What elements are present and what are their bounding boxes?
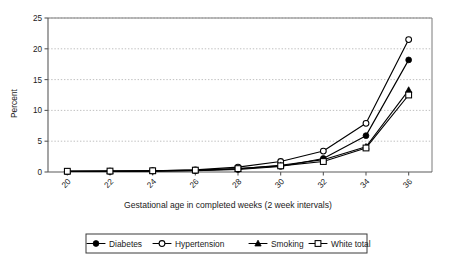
data-point-marker	[406, 57, 412, 63]
y-tick-label-25: 25	[33, 14, 43, 23]
data-point-marker	[406, 92, 412, 98]
data-point-marker	[406, 37, 412, 43]
data-point-marker	[93, 241, 99, 247]
legend-label: Hypertension	[175, 239, 225, 249]
y-tick-label-10: 10	[33, 106, 43, 115]
x-axis-title: Gestational age in completed weeks (2 we…	[124, 200, 332, 210]
line-chart: 0510152025 202224262830323436 Percent Ge…	[0, 0, 451, 266]
y-tick-label-0: 0	[37, 168, 42, 177]
data-point-marker	[278, 163, 284, 169]
data-point-marker	[315, 241, 321, 247]
data-point-marker	[363, 120, 369, 126]
data-point-marker	[363, 133, 369, 139]
data-point-marker	[320, 159, 326, 165]
data-point-marker	[159, 241, 165, 247]
legend-label: Smoking	[271, 239, 304, 249]
chart-legend: DiabetesHypertensionSmokingWhite total	[86, 234, 371, 253]
y-tick-label-5: 5	[37, 137, 42, 146]
data-point-marker	[192, 167, 198, 173]
data-point-marker	[363, 145, 369, 151]
data-point-marker	[150, 168, 156, 174]
y-tick-label-15: 15	[33, 76, 43, 85]
legend-label: White total	[331, 239, 371, 249]
y-tick-label-20: 20	[33, 45, 43, 54]
legend-label: Diabetes	[109, 239, 142, 249]
data-point-marker	[235, 166, 241, 172]
chart-background	[0, 0, 451, 266]
data-point-marker	[107, 168, 113, 174]
data-point-marker	[64, 168, 70, 174]
chart-container: 0510152025 202224262830323436 Percent Ge…	[0, 0, 451, 266]
data-point-marker	[320, 148, 326, 154]
y-axis-title: Percent	[9, 88, 19, 118]
